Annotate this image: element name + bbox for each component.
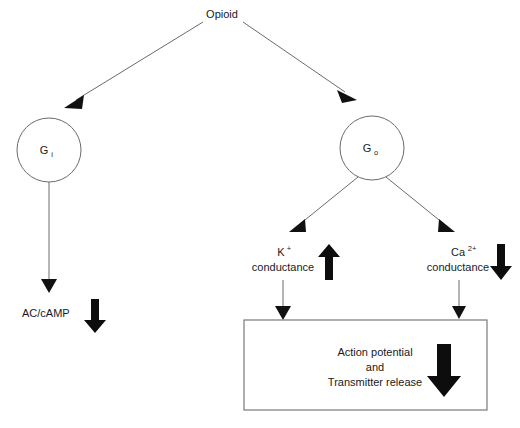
edge-opioid-to-gi [64, 22, 203, 109]
opioid-label: Opioid [206, 8, 238, 20]
ca-conductance-word: conductance [427, 261, 489, 273]
gi-label: G [40, 144, 49, 156]
ac-camp-decrease-arrow [84, 299, 106, 333]
outcome-line-1: Action potential [337, 346, 412, 358]
k-conductance-label-group: K + conductance [252, 244, 314, 273]
k-conductance-word: conductance [252, 261, 314, 273]
edge-ca-conductance-to-outcome [452, 280, 466, 319]
go-label: G [363, 142, 372, 154]
k-conductance-ion: K [277, 246, 285, 258]
node-go: G o [340, 116, 404, 180]
edge-go-to-ca-conductance [386, 177, 455, 232]
ac-camp-label: AC/cAMP [22, 307, 70, 319]
k-conductance-superscript: + [287, 244, 292, 253]
edge-k-conductance-to-outcome [275, 280, 291, 320]
ca-conductance-decrease-arrow [490, 244, 512, 280]
edge-opioid-to-go [243, 22, 357, 103]
ca-conductance-label-group: Ca 2+ conductance [427, 244, 489, 273]
outcome-line-2: and [366, 361, 384, 373]
outcome-line-3: Transmitter release [328, 376, 422, 388]
edge-go-to-k-conductance [289, 177, 358, 232]
opioid-signaling-diagram: Opioid G i G o AC/cAMP [0, 0, 520, 428]
ca-conductance-ion: Ca [451, 246, 466, 258]
go-subscript: o [374, 148, 378, 157]
ca-conductance-superscript: 2+ [468, 244, 477, 253]
edge-gi-to-ac-camp [41, 182, 57, 293]
k-conductance-increase-arrow [318, 244, 340, 280]
diagram-canvas: Opioid G i G o AC/cAMP [0, 0, 520, 428]
node-gi: G i [17, 118, 81, 182]
